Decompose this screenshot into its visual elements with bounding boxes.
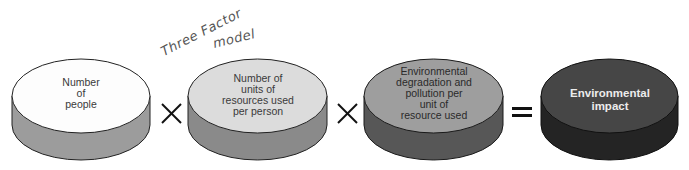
disc-label-resources: Number of units of resources used per pe… (198, 73, 318, 117)
disc-label-impact: Environmental impact (550, 87, 670, 112)
equals-icon (512, 107, 532, 117)
disc-label-degradation: Environmental degradation and pollution … (374, 66, 494, 121)
three-factor-model-diagram: Number of people Number of units of reso… (0, 0, 689, 170)
disc-label-people: Number of people (31, 77, 131, 110)
multiply-icon (162, 104, 181, 123)
multiply-icon (338, 104, 357, 123)
